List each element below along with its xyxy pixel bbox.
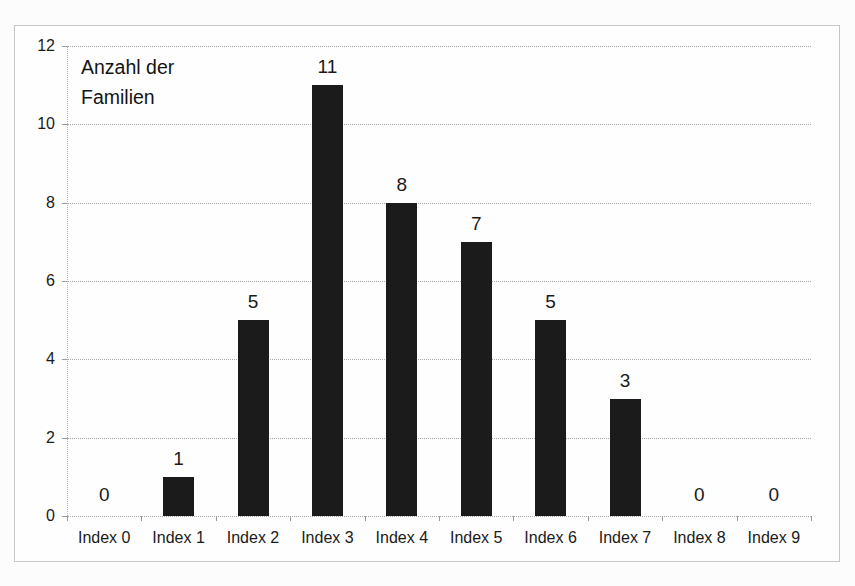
y-axis-tick-label: 8 bbox=[15, 194, 55, 212]
x-axis-tick-label: Index 3 bbox=[290, 529, 364, 547]
gridline-y-2 bbox=[67, 438, 811, 439]
x-tick-7 bbox=[588, 516, 589, 521]
bar-index-2 bbox=[238, 320, 269, 516]
gridline-y-6 bbox=[67, 281, 811, 282]
y-axis-tick-label: 6 bbox=[15, 272, 55, 290]
x-axis-tick-label: Index 7 bbox=[588, 529, 662, 547]
x-tick-8 bbox=[662, 516, 663, 521]
x-axis-tick-label: Index 5 bbox=[439, 529, 513, 547]
x-axis-tick-label: Index 9 bbox=[737, 529, 811, 547]
y-axis-tick-label: 12 bbox=[15, 37, 55, 55]
x-axis-tick-label: Index 1 bbox=[141, 529, 215, 547]
bar-index-6 bbox=[535, 320, 566, 516]
data-label-4: 8 bbox=[365, 174, 439, 196]
x-axis-tick-label: Index 8 bbox=[662, 529, 736, 547]
x-tick-0 bbox=[67, 516, 68, 521]
gridline-y-10 bbox=[67, 124, 811, 125]
bar-index-7 bbox=[610, 399, 641, 517]
x-tick-1 bbox=[141, 516, 142, 521]
x-tick-4 bbox=[365, 516, 366, 521]
x-tick-5 bbox=[439, 516, 440, 521]
gridline-y-8 bbox=[67, 203, 811, 204]
bar-index-1 bbox=[163, 477, 194, 516]
data-label-3: 11 bbox=[290, 56, 364, 78]
x-tick-6 bbox=[513, 516, 514, 521]
x-axis-tick-label: Index 0 bbox=[67, 529, 141, 547]
data-label-6: 5 bbox=[513, 291, 587, 313]
data-label-5: 7 bbox=[439, 213, 513, 235]
bar-index-4 bbox=[386, 203, 417, 516]
x-tick-3 bbox=[290, 516, 291, 521]
data-label-0: 0 bbox=[67, 484, 141, 506]
data-label-7: 3 bbox=[588, 370, 662, 392]
x-axis-tick-label: Index 6 bbox=[513, 529, 587, 547]
y-axis-tick-label: 2 bbox=[15, 429, 55, 447]
data-label-2: 5 bbox=[216, 291, 290, 313]
gridline-y-12 bbox=[67, 46, 811, 47]
y-axis-line bbox=[67, 46, 68, 516]
chart-frame: Anzahl der Familien 0246810120Index 01In… bbox=[14, 25, 840, 562]
x-tick-10 bbox=[811, 516, 812, 521]
y-axis-tick-label: 4 bbox=[15, 350, 55, 368]
y-axis-tick-label: 10 bbox=[15, 115, 55, 133]
bar-index-3 bbox=[312, 85, 343, 516]
y-axis-tick-label: 0 bbox=[15, 507, 55, 525]
data-label-8: 0 bbox=[662, 484, 736, 506]
x-axis-tick-label: Index 2 bbox=[216, 529, 290, 547]
x-tick-2 bbox=[216, 516, 217, 521]
data-label-1: 1 bbox=[141, 448, 215, 470]
x-tick-9 bbox=[737, 516, 738, 521]
gridline-y-4 bbox=[67, 359, 811, 360]
bar-index-5 bbox=[461, 242, 492, 516]
data-label-9: 0 bbox=[737, 484, 811, 506]
x-axis-tick-label: Index 4 bbox=[365, 529, 439, 547]
